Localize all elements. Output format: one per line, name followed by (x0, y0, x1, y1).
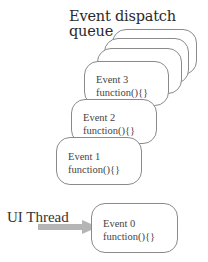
event-code: function(){} (68, 163, 120, 176)
current-event-0: Event 0 function(){} (91, 203, 178, 253)
event-name: Event 0 (103, 217, 135, 230)
event-name: Event 3 (96, 73, 128, 86)
queue-title-line1: Event dispatch (69, 9, 176, 24)
event-code: function(){} (96, 86, 148, 99)
event-name: Event 2 (83, 111, 115, 124)
queue-event-1: Event 1 function(){} (56, 137, 142, 185)
event-name: Event 1 (68, 150, 100, 163)
event-code: function(){} (83, 124, 135, 137)
event-code: function(){} (103, 230, 155, 243)
